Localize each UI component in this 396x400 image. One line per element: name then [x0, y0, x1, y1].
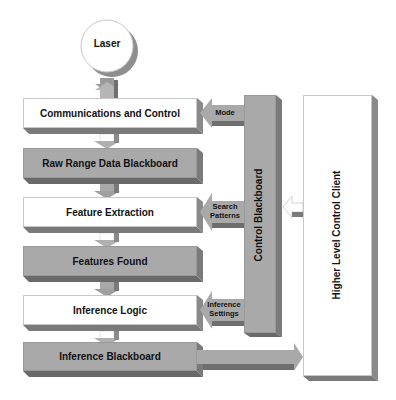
- inference-to-client-arrow: [197, 343, 303, 371]
- client-shadow-right: [372, 95, 378, 381]
- box-label: Features Found: [72, 256, 147, 267]
- laser-node: Laser: [81, 38, 133, 49]
- client-shadow-bottom: [303, 376, 378, 381]
- features-found-box: Features Found: [23, 246, 197, 276]
- control-blackboard-shadow-right: [276, 95, 282, 337]
- client-to-control-arrow: [283, 196, 303, 218]
- control-blackboard-label: Control Blackboard: [253, 155, 267, 275]
- inference-blackboard-box: Inference Blackboard: [23, 342, 197, 371]
- raw-range-data-blackboard-box: Raw Range Data Blackboard: [23, 148, 197, 178]
- laser-label: Laser: [94, 38, 121, 49]
- box-label: Raw Range Data Blackboard: [42, 158, 178, 169]
- control-blackboard-shadow-bottom: [244, 333, 282, 337]
- box-label: Communications and Control: [40, 108, 180, 119]
- inference-logic-box: Inference Logic: [23, 295, 197, 325]
- client-label: Higher Level Control Client: [331, 165, 345, 305]
- inference-settings-arrow-label: Inference Settings: [203, 300, 245, 318]
- search-patterns-arrow-label: Search Patterns: [206, 202, 244, 220]
- mode-arrow-label: Mode: [208, 108, 242, 117]
- feature-extraction-box: Feature Extraction: [23, 197, 197, 227]
- box-label: Feature Extraction: [66, 207, 154, 218]
- box-label: Inference Blackboard: [59, 351, 161, 362]
- communications-and-control-box: Communications and Control: [23, 98, 197, 128]
- laser-bidirectional-arrow: [95, 78, 119, 98]
- pipeline-arrow-1: [94, 134, 120, 149]
- box-label: Inference Logic: [73, 305, 147, 316]
